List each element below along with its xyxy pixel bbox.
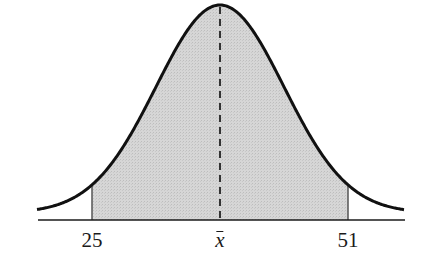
tick-label-mean: x [215,230,224,251]
mean-symbol: x [215,230,224,251]
tick-label-25: 25 [82,230,103,251]
tick-label-51: 51 [338,230,359,251]
